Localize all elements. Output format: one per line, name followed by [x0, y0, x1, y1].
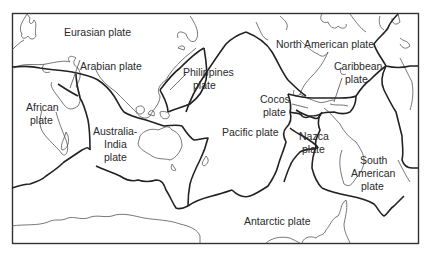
- label-eurasian-plate: Eurasian plate: [64, 26, 131, 38]
- label-pacific-plate: Pacific plate: [222, 126, 279, 138]
- label-north-american-plate: North American plate: [276, 38, 374, 50]
- label-south-american-plate-line2: American: [351, 167, 396, 179]
- label-philippines-plate-line1: Philippines: [183, 66, 234, 78]
- label-african-plate-line2: plate: [30, 114, 53, 126]
- label-south-american-plate-line1: South: [360, 154, 388, 166]
- cocos-leader: [292, 104, 308, 108]
- label-australia-india-plate-line3: plate: [104, 151, 127, 163]
- label-arabian-plate: Arabian plate: [80, 60, 142, 72]
- label-australia-india-plate-line2: India: [104, 138, 127, 150]
- label-caribbean-plate-line1: Caribbean: [334, 60, 383, 72]
- label-nazca-plate-line1: Nazca: [299, 130, 329, 142]
- label-philippines-plate-line2: plate: [193, 79, 216, 91]
- label-cocos-plate-line1: Cocos: [260, 93, 290, 105]
- label-nazca-plate-line2: plate: [302, 143, 325, 155]
- label-african-plate-line1: African: [26, 101, 59, 113]
- label-antarctic-plate: Antarctic plate: [244, 215, 311, 227]
- label-cocos-plate-line2: plate: [263, 106, 286, 118]
- label-caribbean-plate-line2: plate: [345, 73, 368, 85]
- tectonic-plates-map: Eurasian plate Arabian plate African pla…: [0, 0, 429, 256]
- label-south-american-plate-line3: plate: [361, 180, 384, 192]
- label-australia-india-plate-line1: Australia-: [93, 125, 138, 137]
